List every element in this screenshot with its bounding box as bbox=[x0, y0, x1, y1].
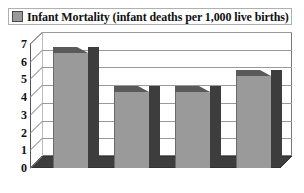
y-axis-tick-label: 4 bbox=[9, 91, 27, 103]
chart-legend: Infant Mortality (infant deaths per 1,00… bbox=[8, 8, 292, 25]
legend-series-label: Infant Mortality (infant deaths per 1,00… bbox=[27, 11, 289, 23]
y-axis-tick-label: 1 bbox=[9, 144, 27, 156]
bar-canada[interactable] bbox=[236, 70, 270, 168]
gridline bbox=[42, 32, 292, 33]
y-axis-tick-label: 0 bbox=[9, 162, 27, 174]
bar-side-face bbox=[271, 70, 282, 162]
y-axis-tick-label: 6 bbox=[9, 56, 27, 68]
bar-side-face bbox=[88, 47, 99, 162]
bar-top-face bbox=[236, 70, 270, 76]
bar-front-face bbox=[114, 92, 148, 168]
bar-france[interactable] bbox=[175, 86, 209, 168]
bar-side-face bbox=[149, 86, 160, 162]
plot-frame bbox=[30, 28, 292, 173]
y-axis-tick-label: 3 bbox=[9, 109, 27, 121]
bar-us[interactable] bbox=[53, 47, 87, 168]
bar-front-face bbox=[53, 53, 87, 168]
y-axis-tick-label: 2 bbox=[9, 127, 27, 139]
bar-front-face bbox=[175, 92, 209, 168]
y-axis-tick-label: 7 bbox=[9, 38, 27, 50]
chart-screenshot: Infant Mortality (infant deaths per 1,00… bbox=[0, 0, 304, 193]
bar-front-face bbox=[236, 76, 270, 168]
bar-top-face bbox=[114, 86, 148, 92]
bar-side-face bbox=[210, 86, 221, 162]
y-axis: 01234567 bbox=[5, 28, 27, 173]
bar-top-face bbox=[175, 86, 209, 92]
legend-color-swatch-icon bbox=[12, 11, 23, 22]
bar-germany[interactable] bbox=[114, 86, 148, 168]
bar-top-face bbox=[53, 47, 87, 53]
y-axis-tick-label: 5 bbox=[9, 73, 27, 85]
plot-area: 01234567 USGermanyFranceCanada bbox=[0, 28, 304, 173]
